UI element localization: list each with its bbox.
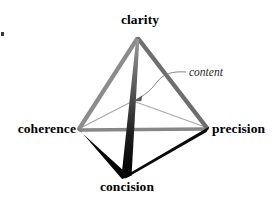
edge-coherence-precision <box>80 129 206 130</box>
edge-precision-concision <box>125 127 210 180</box>
edge-coherence-concision <box>78 128 131 180</box>
vertex-label-coherence: coherence <box>8 122 76 136</box>
edge-clarity-precision <box>139 39 208 128</box>
content-leader-line <box>134 72 186 101</box>
vertex-label-concision: concision <box>87 180 167 194</box>
annotation-label-content: content <box>189 67 223 79</box>
vertex-label-precision: precision <box>212 122 278 136</box>
hidden-edges-group <box>80 39 207 174</box>
scan-artifact-speck <box>1 32 4 36</box>
vertex-label-clarity: clarity <box>105 13 175 27</box>
tetrahedron-diagram <box>0 0 279 204</box>
figure-canvas: clarity coherence precision concision co… <box>0 0 279 204</box>
